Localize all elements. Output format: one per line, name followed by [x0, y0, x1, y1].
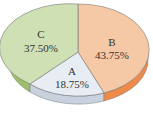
label-c-name: C — [37, 28, 44, 40]
label-a-name: A — [68, 65, 76, 77]
label-b-value: 43.75% — [95, 49, 129, 61]
label-c-value: 37.50% — [24, 42, 58, 54]
label-a-value: 18.75% — [55, 78, 89, 90]
label-b-name: B — [108, 36, 115, 48]
pie-chart: C 37.50% B 43.75% A 18.75% — [0, 0, 153, 114]
